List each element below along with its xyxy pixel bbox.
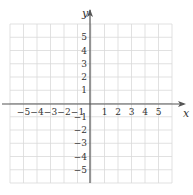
y-tick-label: −1	[74, 112, 87, 122]
x-tick-label: 5	[156, 107, 162, 117]
y-tick-label: 1	[81, 85, 87, 95]
x-tick-label: 1	[102, 107, 108, 117]
y-tick-label: 3	[81, 59, 87, 69]
x-tick-label: −3	[44, 107, 58, 117]
x-tick-label: −4	[30, 107, 44, 117]
y-tick-label: −3	[74, 138, 88, 148]
coordinate-grid: −5−4−3−2−112345 54321−1−2−3−4−5 x y	[0, 0, 193, 195]
x-tick-label: 3	[129, 107, 135, 117]
y-tick-label: −5	[74, 165, 88, 175]
x-tick-label: −5	[17, 107, 31, 117]
x-tick-label: 2	[115, 107, 121, 117]
y-axis-label: y	[81, 7, 89, 20]
x-axis-label: x	[183, 107, 190, 120]
y-tick-label: 4	[81, 46, 87, 56]
y-tick-label: 5	[81, 32, 87, 42]
x-tick-label: 4	[142, 107, 148, 117]
y-tick-label: −2	[74, 125, 87, 135]
y-tick-label: −4	[74, 152, 88, 162]
x-tick-labels: −5−4−3−2−112345	[17, 107, 162, 117]
y-tick-label: 2	[81, 72, 87, 82]
x-tick-label: −2	[57, 107, 70, 117]
